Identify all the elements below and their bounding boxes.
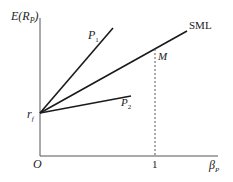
intercept-label: rf bbox=[27, 107, 35, 123]
p1-label: P1 bbox=[87, 28, 99, 44]
sml-line bbox=[40, 31, 187, 113]
sml-label: SML bbox=[189, 19, 212, 31]
sml-diagram: E(RP) P1 SML M P2 rf O 1 βP bbox=[0, 0, 233, 182]
origin-label: O bbox=[33, 157, 42, 171]
x-axis-label: βP bbox=[208, 158, 220, 174]
y-axis-label: E(RP) bbox=[10, 9, 39, 25]
p2-label: P2 bbox=[120, 96, 132, 111]
p1-line bbox=[40, 28, 113, 113]
x-tick-label-1: 1 bbox=[152, 158, 158, 170]
market-point-label: M bbox=[157, 50, 168, 62]
